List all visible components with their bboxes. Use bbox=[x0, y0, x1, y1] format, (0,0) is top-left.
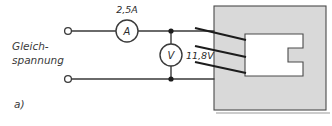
supply-label: Gleich- spannung bbox=[12, 40, 64, 66]
ammeter[interactable]: A 2,5A bbox=[116, 4, 138, 42]
supply-label-line2: spannung bbox=[12, 54, 64, 66]
supply-terminals bbox=[65, 28, 72, 83]
junction-dot-top-icon bbox=[168, 28, 173, 33]
subfigure-label: a) bbox=[14, 98, 25, 110]
positive-terminal-icon[interactable] bbox=[65, 28, 72, 35]
junction-dot-bottom-icon bbox=[168, 76, 173, 81]
ammeter-glyph: A bbox=[123, 26, 131, 37]
voltmeter-reading: 11,8V bbox=[186, 50, 215, 61]
voltmeter[interactable]: V 11,8V bbox=[160, 44, 215, 66]
circuit-diagram-figure: A 2,5A V 11,8V Gleich- spannung a) bbox=[0, 0, 332, 126]
supply-label-line1: Gleich- bbox=[12, 40, 49, 52]
negative-terminal-icon[interactable] bbox=[65, 76, 72, 83]
voltmeter-glyph: V bbox=[168, 50, 176, 61]
ammeter-reading: 2,5A bbox=[116, 4, 138, 15]
load-block bbox=[214, 6, 326, 110]
